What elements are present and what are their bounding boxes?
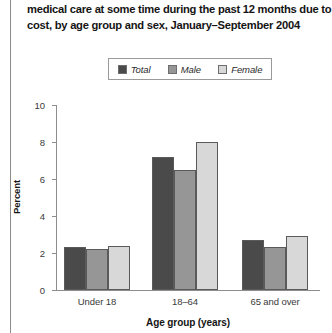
- legend-label-male: Male: [181, 64, 201, 75]
- legend-swatch-female: [218, 65, 227, 74]
- x-category-label-1: 18–64: [172, 296, 198, 307]
- y-tick-label-10: 10: [34, 100, 45, 111]
- bar-male-1: [174, 170, 196, 290]
- x-category-label-2: 65 and over: [250, 296, 299, 307]
- bar-group-1: [152, 105, 218, 290]
- y-tick-label-0: 0: [40, 285, 45, 296]
- x-axis-title: Age group (years): [146, 317, 230, 328]
- bar-male-2: [264, 247, 286, 290]
- chart-legend: Total Male Female: [108, 58, 272, 80]
- legend-item-male: Male: [168, 64, 201, 75]
- y-tick-label-4: 4: [40, 211, 45, 222]
- legend-label-total: Total: [131, 64, 151, 75]
- legend-label-female: Female: [231, 64, 262, 75]
- bar-group-2: [242, 105, 308, 290]
- bar-group-0: [64, 105, 130, 290]
- y-tick-2: 2: [52, 253, 56, 254]
- caption-line-1: medical care at some time during the pas…: [27, 2, 323, 18]
- chart-page: medical care at some time during the pas…: [0, 0, 332, 333]
- legend-swatch-male: [168, 65, 177, 74]
- y-tick-8: 8: [52, 142, 56, 143]
- y-tick-4: 4: [52, 216, 56, 217]
- bar-female-2: [286, 236, 308, 290]
- figure-caption: medical care at some time during the pas…: [27, 2, 323, 33]
- caption-line-2: cost, by age group and sex, January–Sept…: [27, 18, 323, 34]
- y-tick-label-6: 6: [40, 174, 45, 185]
- bar-female-1: [196, 142, 218, 290]
- bar-total-1: [152, 157, 174, 290]
- y-tick-label-2: 2: [40, 248, 45, 259]
- y-axis-title: Percent: [11, 180, 22, 214]
- bar-female-0: [108, 246, 130, 290]
- y-tick-6: 6: [52, 179, 56, 180]
- x-category-label-0: Under 18: [78, 296, 116, 307]
- y-tick-0: 0: [52, 290, 56, 291]
- page-margin-rule: [10, 0, 11, 333]
- bar-total-2: [242, 240, 264, 290]
- bar-male-0: [86, 249, 108, 290]
- y-tick-10: 10: [52, 105, 56, 106]
- bar-total-0: [64, 247, 86, 290]
- legend-item-female: Female: [218, 64, 262, 75]
- y-axis-line: [56, 105, 57, 290]
- legend-swatch-total: [118, 65, 127, 74]
- legend-item-total: Total: [118, 64, 151, 75]
- x-axis-line: [56, 290, 320, 291]
- y-tick-label-8: 8: [40, 137, 45, 148]
- plot-area: Percent 0246810 Under 1818–6465 and over…: [56, 105, 320, 290]
